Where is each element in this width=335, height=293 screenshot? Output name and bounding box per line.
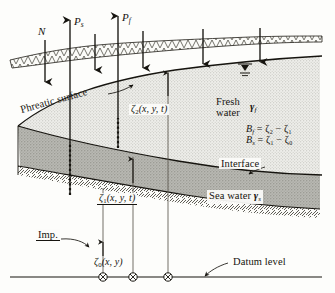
label-natural-replenishment: N [38,26,45,38]
figure-canvas [0,0,335,293]
label-Pf-base: P [122,11,129,23]
well-marker-2 [129,273,137,281]
label-zeta0: ζ0(x, y) [94,257,123,268]
label-sea-water-zone: Sea water γs [207,190,263,204]
label-interface: Interface [219,158,261,169]
leader-impervious [61,239,89,247]
Bs-rhs: = ζ₁ − ζ₀ [255,134,293,145]
label-datum-level: Datum level [233,256,286,267]
gamma-s-subscript: s [258,195,261,203]
label-zeta2: ζ2(x, y, t) [129,104,169,115]
well-marker-3 [164,273,172,281]
coastal-aquifer-figure: N Ps Pf Phreatic surface ζ2(x, y, t) Fre… [0,0,335,293]
label-zeta1: ζ1(x, y, t) [97,193,137,205]
label-fresh-water-gamma: γf [250,101,257,115]
Bf-rhs: = ζ₂ − ζ₁ [254,123,292,134]
leader-datum [205,263,228,276]
label-zeta2-args: (x, y, t) [139,103,168,114]
label-pumping-sea-water: Ps [74,16,84,29]
label-fresh-line2: water [216,107,240,118]
label-zeta0-args: (x, y) [102,256,123,267]
gamma-f-subscript: f [254,106,256,114]
label-impervious: Imp. [36,229,60,241]
equation-thickness-sea: Bs = ζ₁ − ζ₀ [246,135,293,146]
label-fresh-line1: Fresh [216,96,240,107]
well-marker-1 [99,273,107,281]
label-Ps-subscript: s [81,20,84,29]
equation-block: Bf = ζ₂ − ζ₁ Bs = ζ₁ − ζ₀ [246,124,293,146]
label-Ps-base: P [74,15,81,27]
label-fresh-water-zone: Fresh water [216,96,240,118]
label-pumping-fresh-water: Pf [122,12,131,25]
label-sea-water-text: Sea water [209,190,251,201]
label-Pf-subscript: f [129,16,131,25]
label-fresh-word: water [216,107,240,118]
label-zeta1-args: (x, y, t) [107,192,136,203]
